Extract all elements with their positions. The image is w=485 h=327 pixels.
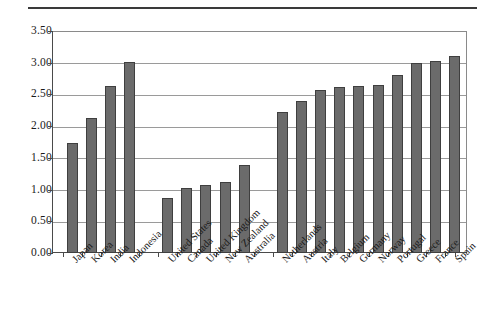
top-divider-rule <box>28 7 477 9</box>
y-tick-label: 3.50 <box>4 25 52 37</box>
y-tick-label: 3.00 <box>4 57 52 69</box>
bar <box>430 61 441 253</box>
bar <box>334 87 345 253</box>
bar <box>392 75 403 253</box>
y-axis: 0.000.501.001.502.002.503.003.50 <box>0 0 52 327</box>
bar <box>411 63 422 253</box>
y-tick-label: 1.00 <box>4 184 52 196</box>
y-tick-label: 2.00 <box>4 120 52 132</box>
y-tick-label: 1.50 <box>4 152 52 164</box>
x-axis-labels: JapanKoreaIndiaIndonesiaUnited StatesCan… <box>52 257 485 327</box>
bar <box>449 56 460 253</box>
y-tick-label: 0.50 <box>4 215 52 227</box>
chart-figure: 0.000.501.001.502.002.503.003.50 JapanKo… <box>0 0 485 327</box>
bar <box>162 198 173 253</box>
bar <box>277 112 288 253</box>
bar <box>373 85 384 253</box>
bar <box>86 118 97 253</box>
y-tick-label: 2.50 <box>4 88 52 100</box>
y-tick-label: 0.00 <box>4 247 52 259</box>
bar <box>353 86 364 253</box>
bar <box>124 62 135 253</box>
bar <box>105 86 116 253</box>
bar <box>67 143 78 253</box>
